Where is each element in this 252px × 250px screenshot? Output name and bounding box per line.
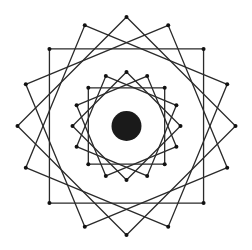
vertex-dot [225, 82, 229, 86]
vertex-dot [47, 201, 51, 205]
vertex-dot [104, 74, 108, 78]
vertex-dot [166, 225, 170, 229]
vertex-dot [163, 162, 167, 166]
vertex-dot [104, 174, 108, 178]
vertex-dot [24, 82, 28, 86]
vertex-dot [83, 23, 87, 27]
rotated-squares-diagram [0, 0, 252, 250]
vertex-dot [71, 124, 75, 128]
vertex-dot [174, 103, 178, 107]
vertex-dot [166, 23, 170, 27]
center-disk [112, 111, 142, 141]
vertex-dot [16, 124, 20, 128]
vertex-dot [75, 103, 79, 107]
vertex-dot [75, 145, 79, 149]
vertex-dot [125, 233, 129, 237]
vertex-dot [24, 166, 28, 170]
vertex-dot [202, 47, 206, 51]
vertex-dot [86, 86, 90, 90]
vertex-dot [83, 225, 87, 229]
vertex-dot [145, 74, 149, 78]
vertex-dot [225, 166, 229, 170]
vertex-dot [234, 124, 238, 128]
vertex-dot [163, 86, 167, 90]
vertex-dot [179, 124, 183, 128]
vertex-dot [47, 47, 51, 51]
vertex-dot [125, 178, 129, 182]
vertex-dot [125, 15, 129, 19]
vertex-dot [202, 201, 206, 205]
vertex-dot [145, 174, 149, 178]
vertex-dot [125, 70, 129, 74]
vertex-dot [174, 145, 178, 149]
vertex-dot [86, 162, 90, 166]
